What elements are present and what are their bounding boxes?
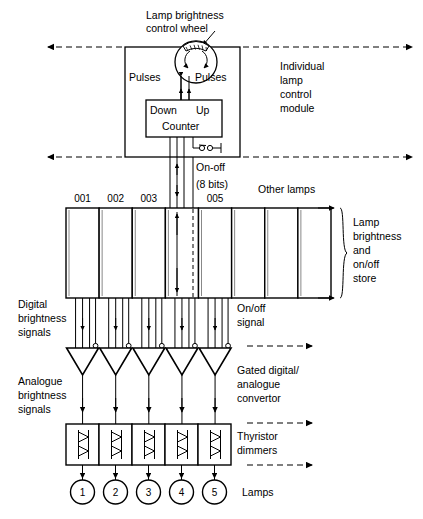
analogue-brightness-bus xyxy=(83,375,216,424)
convertor-label-line2: analogue xyxy=(237,378,280,390)
counter-up-label: Up xyxy=(196,104,210,116)
onoff-signal-line2: signal xyxy=(237,316,264,328)
other-lamps-label: Other lamps xyxy=(258,183,315,195)
control-wheel-label-line2: control wheel xyxy=(146,22,208,34)
store-brace xyxy=(340,208,347,298)
lamps-label: Lamps xyxy=(242,486,274,498)
store-cell[interactable] xyxy=(298,208,331,298)
onoff-switch-contact-right xyxy=(207,145,212,150)
store-label-line4: on/off xyxy=(353,258,379,270)
store-cell[interactable] xyxy=(232,208,265,298)
lamp-circles[interactable]: 12345 xyxy=(71,465,227,504)
lamp-number: 5 xyxy=(212,487,218,498)
pulses-right-label: Pulses xyxy=(195,71,227,83)
control-wheel-label-line1: Lamp brightness xyxy=(146,9,224,21)
store-cell-id: 001 xyxy=(74,193,91,204)
da-converter[interactable] xyxy=(100,348,132,375)
store-label-line1: Lamp xyxy=(353,216,379,228)
thyristor-label-line2: dimmers xyxy=(237,444,277,456)
module-label-line3: control xyxy=(280,88,312,100)
da-converter[interactable] xyxy=(199,348,231,375)
da-converter[interactable] xyxy=(166,348,198,375)
store-label-line2: brightness xyxy=(353,230,401,242)
convertor-label-line1: Gated digital/ xyxy=(237,364,299,376)
module-label-line1: Individual xyxy=(280,60,324,72)
store-label-line3: and xyxy=(353,244,371,256)
convertor-label-line3: convertor xyxy=(237,392,281,404)
store-cell-id: 003 xyxy=(140,193,157,204)
store-cell[interactable] xyxy=(165,208,198,298)
thyristor-dimmers[interactable] xyxy=(66,424,231,465)
da-converter[interactable] xyxy=(133,348,165,375)
lamp-control-schematic: Lamp brightness control wheel Pulses Pul… xyxy=(0,0,423,519)
module-label-line4: module xyxy=(280,102,315,114)
thyristor-dimmer-cell[interactable] xyxy=(99,424,132,465)
onoff-signal-line1: On/off xyxy=(237,302,265,314)
thyristor-dimmer-cell[interactable] xyxy=(198,424,231,465)
digital-label-line3: signals xyxy=(18,326,51,338)
da-converter[interactable] xyxy=(67,348,99,375)
lamp-number: 4 xyxy=(179,487,185,498)
onoff-label: On-off xyxy=(196,161,225,173)
store-cell[interactable] xyxy=(199,208,232,298)
thyristor-dimmer-cell[interactable] xyxy=(165,424,198,465)
analogue-label-line3: signals xyxy=(18,403,51,415)
digital-label-line2: brightness xyxy=(18,312,66,324)
analogue-label-line1: Analogue xyxy=(18,375,63,387)
store-cell-id: 005 xyxy=(207,193,224,204)
store-cell[interactable] xyxy=(265,208,298,298)
onoff-switch-contact-left xyxy=(199,145,204,150)
digital-label-line1: Digital xyxy=(18,298,47,310)
bits-label: (8 bits) xyxy=(196,178,228,190)
analogue-label-line2: brightness xyxy=(18,389,66,401)
module-label-line2: lamp xyxy=(280,74,303,86)
store-cell[interactable] xyxy=(132,208,165,298)
diagram-root: Lamp brightness control wheel Pulses Pul… xyxy=(0,0,423,519)
thyristor-label-line1: Thyristor xyxy=(237,430,278,442)
digital-brightness-bus xyxy=(76,298,229,348)
onoff-switch-blade xyxy=(199,145,206,146)
store-label-line5: store xyxy=(353,272,377,284)
thyristor-dimmer-cell[interactable] xyxy=(132,424,165,465)
lamp-number: 1 xyxy=(80,487,86,498)
gated-da-converters[interactable] xyxy=(67,343,232,375)
pulses-left-label: Pulses xyxy=(129,71,161,83)
lamp-number: 3 xyxy=(146,487,152,498)
lamp-brightness-store[interactable] xyxy=(66,208,331,298)
lamp-number: 2 xyxy=(113,487,119,498)
store-cell-labels: 001002003005 xyxy=(74,193,224,204)
store-cell-id: 002 xyxy=(107,193,124,204)
counter-down-label: Down xyxy=(150,104,177,116)
counter-name-label: Counter xyxy=(162,120,200,132)
thyristor-dimmer-cell[interactable] xyxy=(66,424,99,465)
store-cell[interactable] xyxy=(66,208,99,298)
store-cell[interactable] xyxy=(99,208,132,298)
